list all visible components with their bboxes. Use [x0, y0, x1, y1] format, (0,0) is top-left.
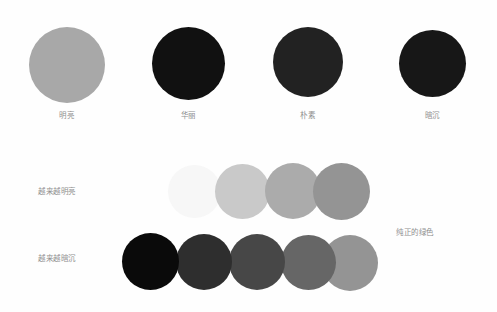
dark-ramp-swatch-2 [176, 234, 232, 290]
row-label-darker: 越来越暗沉 [38, 255, 76, 263]
darker-row-group: 越来越暗沉 [0, 0, 497, 312]
color-reference-sheet: 明亮 华丽 朴素 暗沉 越来越明亮 纯正的绿色 越来越暗沉 [0, 0, 497, 312]
dark-ramp-swatch-3 [229, 234, 285, 290]
dark-ramp-swatch-1 [122, 233, 179, 290]
dark-ramp-swatch-4 [281, 235, 336, 290]
